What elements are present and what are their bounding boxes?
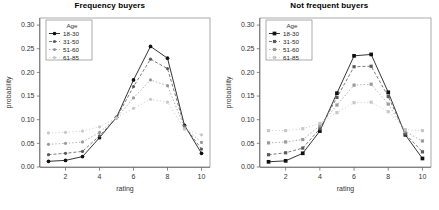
x-tick-label: 6 [132, 173, 136, 180]
data-point [64, 152, 67, 155]
data-point [318, 127, 321, 130]
data-point [166, 84, 169, 87]
legend-label-31-50: 31-50 [283, 38, 299, 45]
data-point [335, 96, 338, 99]
y-tick-label: 0.00 [240, 163, 254, 170]
x-tick-label: 2 [64, 173, 68, 180]
data-point [149, 78, 152, 81]
y-tick-label: 0.30 [240, 21, 254, 28]
y-tick-label: 0.20 [240, 69, 254, 76]
data-point [98, 131, 101, 134]
data-point [284, 140, 287, 143]
data-point [132, 78, 136, 82]
data-point [81, 140, 84, 143]
legend-marker-31-50 [272, 40, 275, 43]
x-tick-label: 10 [198, 173, 206, 180]
legend-marker-51-60 [53, 48, 56, 51]
data-point [403, 128, 406, 131]
data-point [132, 96, 135, 99]
data-point [200, 133, 203, 136]
y-tick-label: 0.25 [21, 45, 35, 52]
data-point [132, 107, 135, 110]
data-point [283, 159, 287, 163]
data-point [352, 84, 355, 87]
x-tick-label: 2 [283, 173, 287, 180]
y-tick-label: 0.15 [21, 92, 35, 99]
y-tick-label: 0.25 [240, 45, 254, 52]
data-point [335, 103, 338, 106]
data-point [369, 101, 372, 104]
legend-marker-61-85 [272, 56, 275, 59]
data-point [386, 110, 389, 113]
data-point [386, 95, 389, 98]
y-axis-label: probability [5, 76, 13, 108]
data-point [300, 151, 304, 155]
data-point [115, 116, 118, 119]
legend-label-31-50: 31-50 [63, 38, 79, 45]
data-point [352, 101, 355, 104]
legend-label-61-85: 61-85 [63, 54, 79, 61]
data-point [166, 101, 169, 104]
x-axis-label: rating [336, 185, 354, 193]
data-point [200, 141, 203, 144]
data-point [266, 153, 269, 156]
data-point [81, 155, 85, 159]
x-tick-label: 4 [98, 173, 102, 180]
x-tick-label: 8 [386, 173, 390, 180]
data-point [166, 67, 169, 70]
data-point [284, 129, 287, 132]
data-point [98, 134, 101, 137]
data-point [335, 111, 338, 114]
data-point [81, 150, 84, 153]
legend-title: Age [66, 22, 78, 29]
panel-not-frequent-buyers: Not frequent buyers 0.000.050.100.150.20… [220, 0, 439, 210]
chart-plot-left: 0.000.050.100.150.200.250.30probability2… [0, 0, 219, 210]
data-point [266, 129, 269, 132]
data-point [200, 151, 204, 155]
legend-title: Age [286, 22, 298, 29]
data-point [301, 146, 304, 149]
data-point [149, 45, 153, 49]
data-point [47, 159, 51, 163]
x-tick-label: 4 [317, 173, 321, 180]
y-tick-label: 0.05 [21, 140, 35, 147]
panel-frequency-buyers: Frequency buyers 0.000.050.100.150.200.2… [0, 0, 220, 210]
data-point [420, 139, 423, 142]
data-point [183, 128, 186, 131]
data-point [420, 157, 424, 161]
legend-label-18-30: 18-30 [283, 30, 299, 37]
y-tick-label: 0.20 [21, 69, 35, 76]
data-point [318, 122, 321, 125]
data-point [47, 153, 50, 156]
data-point [369, 53, 373, 57]
data-point [200, 147, 203, 150]
data-point [47, 131, 50, 134]
data-point [47, 143, 50, 146]
data-point [301, 127, 304, 130]
figure-root: Frequency buyers 0.000.050.100.150.200.2… [0, 0, 439, 210]
data-point [64, 142, 67, 145]
y-tick-label: 0.05 [240, 140, 254, 147]
legend-marker-51-60 [272, 48, 275, 51]
data-point [81, 129, 84, 132]
y-tick-label: 0.15 [240, 92, 254, 99]
data-point [369, 65, 372, 68]
x-axis-label: rating [116, 185, 134, 193]
data-point [166, 56, 170, 60]
data-point [369, 83, 372, 86]
data-point [335, 91, 339, 95]
data-point [132, 85, 135, 88]
chart-plot-right: 0.000.050.100.150.200.250.30probability2… [220, 0, 439, 210]
legend-marker-18-30 [272, 32, 276, 36]
data-point [301, 138, 304, 141]
data-point [352, 65, 355, 68]
legend-marker-61-85 [53, 56, 56, 59]
data-point [266, 141, 269, 144]
legend-label-51-60: 51-60 [283, 46, 299, 53]
y-axis-label: probability [225, 76, 233, 108]
x-tick-label: 8 [166, 173, 170, 180]
x-tick-label: 10 [418, 173, 426, 180]
y-tick-label: 0.10 [240, 116, 254, 123]
data-point [420, 129, 423, 132]
data-point [284, 151, 287, 154]
